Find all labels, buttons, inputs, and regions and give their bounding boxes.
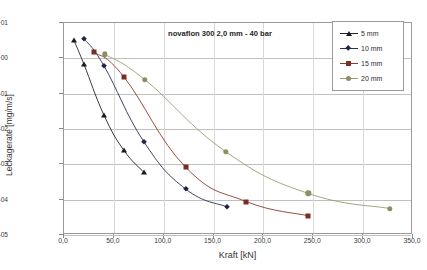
y-tick-label: 1,00E-05 (0, 231, 8, 238)
x-tick-label: 250,0 (292, 237, 332, 244)
data-point (91, 50, 96, 55)
x-tick-label: 100,0 (143, 237, 183, 244)
legend-swatch (340, 44, 358, 54)
y-tick-label: 1,00E+00 (0, 54, 8, 61)
legend-label: 10 mm (361, 45, 382, 52)
y-tick-label: 1,00E-01 (0, 89, 8, 96)
data-point (244, 199, 249, 204)
data-point (141, 170, 147, 175)
chart-container: Leckagerate [mg/m/s] Kraft [kN] 1,00E+01… (0, 0, 427, 270)
data-point (121, 148, 127, 153)
legend-item-15-mm[interactable]: 15 mm (333, 56, 403, 71)
x-tick-label: 150,0 (193, 237, 233, 244)
legend-item-5-mm[interactable]: 5 mm (333, 26, 403, 41)
legend-label: 20 mm (361, 75, 382, 82)
x-axis-title: Kraft [kN] (63, 250, 412, 260)
x-tick-label: 350,0 (392, 237, 427, 244)
legend-swatch (340, 74, 358, 84)
data-point (121, 74, 126, 79)
data-point (71, 38, 77, 43)
legend-marker-triangle-icon (346, 31, 352, 36)
data-point (183, 165, 188, 170)
gridline-horizontal (64, 235, 411, 236)
y-tick-label: 1,00E-03 (0, 160, 8, 167)
legend-item-20-mm[interactable]: 20 mm (333, 71, 403, 86)
legend-item-10-mm[interactable]: 10 mm (333, 41, 403, 56)
legend-swatch (340, 29, 358, 39)
x-tick-label: 200,0 (242, 237, 282, 244)
legend-swatch (340, 59, 358, 69)
legend-marker-circle-icon (346, 76, 351, 81)
x-tick-label: 50,0 (93, 237, 133, 244)
data-point (81, 62, 87, 67)
y-axis-title: Leckagerate [mg/m/s] (0, 0, 18, 270)
legend-marker-diamond-icon (345, 45, 351, 51)
legend-label: 15 mm (361, 60, 382, 67)
legend-marker-square-icon (346, 61, 351, 66)
x-tick-label: 0,0 (43, 237, 83, 244)
data-point (101, 112, 107, 117)
y-tick-label: 1,00E-04 (0, 195, 8, 202)
y-tick-label: 1,00E+01 (0, 19, 8, 26)
legend: 5 mm10 mm15 mm20 mm (332, 21, 404, 91)
y-tick-label: 1,00E-02 (0, 125, 8, 132)
data-point (306, 213, 311, 218)
legend-label: 5 mm (361, 30, 379, 37)
x-tick-label: 300,0 (342, 237, 382, 244)
chart-title: novaflon 300 2,0 mm - 40 bar (120, 29, 320, 38)
